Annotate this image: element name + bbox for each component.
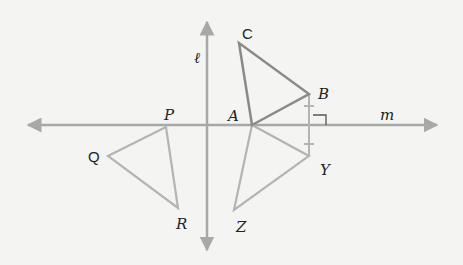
triangle-ABC bbox=[239, 43, 309, 125]
label-Z: Z bbox=[235, 218, 247, 236]
reflection-diagram: ℓ m C B A Y Z P Q R bbox=[0, 0, 463, 265]
label-m: m bbox=[380, 106, 394, 124]
label-Y: Y bbox=[320, 161, 332, 179]
label-A: A bbox=[226, 107, 239, 125]
right-angle-marker bbox=[313, 115, 326, 125]
label-B: B bbox=[317, 85, 329, 103]
label-C: C bbox=[242, 25, 253, 42]
label-Q: Q bbox=[88, 148, 100, 165]
label-l: ℓ bbox=[194, 49, 200, 67]
triangle-PQR bbox=[108, 127, 178, 208]
triangle-AYZ bbox=[234, 125, 309, 210]
label-P: P bbox=[163, 106, 175, 124]
label-R: R bbox=[175, 215, 187, 233]
